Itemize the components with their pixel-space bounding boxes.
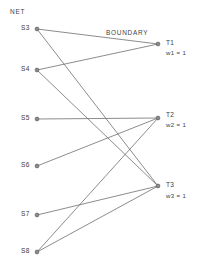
target-node-t1[interactable] — [156, 42, 160, 46]
source-label-s3: S3 — [21, 25, 30, 32]
network-diagram-canvas: NET BOUNDARY S3S4S5S6S7S8T1w1 = 1T2w2 = … — [0, 0, 202, 271]
weight-label-t3: w3 = 1 — [166, 193, 186, 199]
edge-s8-t2 — [37, 118, 158, 252]
weight-label-t2: w2 = 1 — [166, 122, 186, 128]
edge-s7-t3 — [37, 186, 158, 215]
source-node-s8[interactable] — [35, 250, 39, 254]
edge-layer — [37, 29, 158, 252]
weight-label-t1: w1 = 1 — [166, 50, 186, 56]
node-layer — [35, 27, 160, 254]
target-label-t1: T1 — [166, 40, 174, 47]
edge-s4-t1 — [37, 44, 158, 70]
source-label-s8: S8 — [21, 248, 30, 255]
edge-s8-t3 — [37, 186, 158, 252]
source-node-s4[interactable] — [35, 68, 39, 72]
source-node-s7[interactable] — [35, 213, 39, 217]
edge-s4-t3 — [37, 70, 158, 186]
source-node-s6[interactable] — [35, 164, 39, 168]
target-node-t2[interactable] — [156, 116, 160, 120]
source-label-s5: S5 — [21, 115, 30, 122]
net-header-label: NET — [10, 9, 25, 16]
edge-s3-t3 — [37, 29, 158, 186]
source-label-s6: S6 — [21, 162, 30, 169]
source-label-s4: S4 — [21, 66, 30, 73]
source-node-s5[interactable] — [35, 117, 39, 121]
target-label-t2: T2 — [166, 112, 174, 119]
boundary-header-label: BOUNDARY — [106, 30, 148, 37]
source-label-s7: S7 — [21, 211, 30, 218]
source-node-s3[interactable] — [35, 27, 39, 31]
edge-s5-t2 — [37, 118, 158, 119]
target-label-t3: T3 — [166, 182, 174, 189]
target-node-t3[interactable] — [156, 184, 160, 188]
edge-s6-t2 — [37, 118, 158, 166]
